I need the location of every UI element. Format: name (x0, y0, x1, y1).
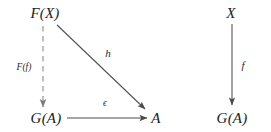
arrow-label-epsilon: ϵ (103, 99, 107, 109)
arrow-label-f: f (241, 60, 244, 71)
object-label-A: A (151, 111, 160, 126)
arrow-label-h: h (105, 48, 111, 59)
object-label-X: X (226, 6, 235, 21)
arrow-h (57, 25, 145, 109)
arrow-label-Ff: F(f) (17, 63, 32, 73)
object-label-FX: F(X) (30, 6, 59, 21)
object-label-GA: G(A) (31, 111, 62, 126)
object-label-GA2: G(A) (217, 111, 248, 126)
commutative-diagram-figure: F(X) G(A) A F(f) h ϵ X G(A) f (0, 0, 271, 132)
